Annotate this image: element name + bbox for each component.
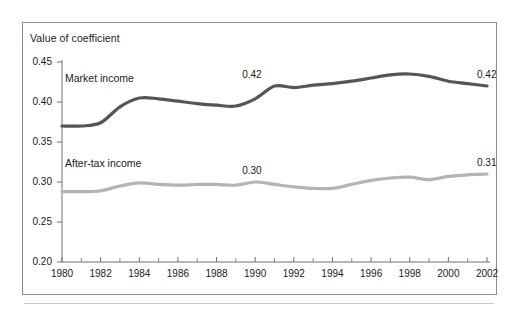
x-tick-label: 1984 — [122, 268, 156, 279]
x-tick-label: 1986 — [161, 268, 195, 279]
page-edge-divider — [24, 303, 494, 304]
x-tick-label: 1996 — [354, 268, 388, 279]
x-tick-label: 2002 — [470, 268, 504, 279]
figure: Value of coefficient 0.450.400.350.300.2… — [0, 0, 521, 311]
x-tick-label: 1992 — [277, 268, 311, 279]
data-point-label-1: 0.42 — [242, 69, 261, 80]
x-tick-label: 1980 — [45, 268, 79, 279]
data-point-label-2: 0.42 — [477, 69, 496, 80]
x-tick-label: 1990 — [238, 268, 272, 279]
chart-plot-area — [0, 0, 521, 311]
data-point-label-3: 0.30 — [242, 165, 261, 176]
series-label-2: After-tax income — [65, 157, 141, 169]
data-point-label-4: 0.31 — [477, 157, 496, 168]
y-tick-label: 0.30 — [22, 176, 52, 187]
y-tick-label: 0.25 — [22, 216, 52, 227]
series-line-2 — [62, 174, 487, 192]
y-tick-label: 0.45 — [22, 56, 52, 67]
y-tick-label: 0.40 — [22, 96, 52, 107]
x-tick-label: 1994 — [315, 268, 349, 279]
x-tick-label: 1982 — [84, 268, 118, 279]
x-tick-label: 1988 — [200, 268, 234, 279]
series-label-1: Market income — [65, 72, 134, 84]
x-tick-label: 2000 — [431, 268, 465, 279]
y-tick-label: 0.20 — [22, 256, 52, 267]
y-tick-label: 0.35 — [22, 136, 52, 147]
x-tick-label: 1998 — [393, 268, 427, 279]
